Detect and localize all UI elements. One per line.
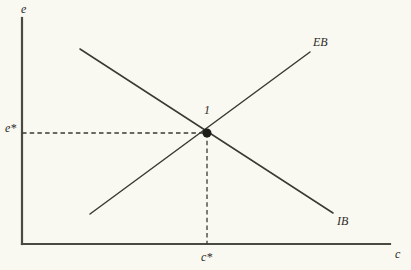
ib-curve-label: IB: [337, 215, 348, 227]
equilibrium-point-label: 1: [204, 104, 210, 116]
eb-curve-label: EB: [313, 36, 328, 48]
equilibrium-point-marker: [203, 129, 212, 138]
y-axis-label: e: [21, 3, 26, 15]
x-axis-tick-label-c-star: c*: [201, 251, 212, 263]
economics-diagram: e c e* c* EB IB 1: [0, 0, 411, 270]
x-axis-label: c: [395, 248, 400, 260]
y-axis-tick-label-e-star: e*: [5, 122, 16, 134]
diagram-canvas: [0, 0, 411, 270]
